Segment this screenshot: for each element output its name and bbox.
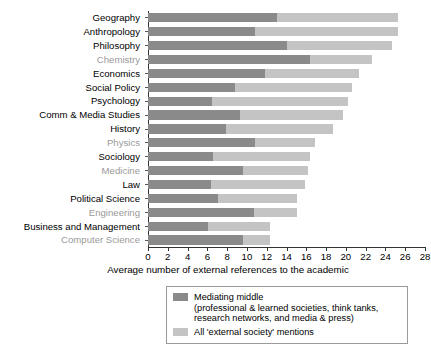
bar-container: [148, 205, 431, 219]
x-axis-tick-label: 2: [158, 252, 178, 262]
bar-container: [148, 94, 431, 108]
category-label: Anthropology: [0, 27, 145, 37]
category-label: Psychology: [0, 96, 145, 106]
bar-segment-external-society: [243, 166, 308, 175]
bar-segment-external-society: [235, 83, 352, 92]
stacked-bar: [148, 138, 315, 147]
bar-segment-external-society: [310, 55, 371, 64]
stacked-bar: [148, 208, 297, 217]
legend-label-sub2: research networks, and media & press): [194, 313, 378, 324]
stacked-bar: [148, 83, 352, 92]
bar-segment-external-society: [240, 110, 343, 119]
category-label: Business and Management: [0, 222, 145, 232]
bar-rows: GeographyAnthropologyPhilosophyChemistry…: [0, 11, 431, 247]
legend-swatch-icon-light: [173, 328, 188, 336]
stacked-bar: [148, 13, 398, 22]
bar-container: [148, 233, 431, 247]
bar-segment-external-society: [265, 69, 359, 78]
plot-area: GeographyAnthropologyPhilosophyChemistry…: [0, 0, 431, 250]
category-label: Geography: [0, 13, 145, 23]
bar-row: Physics: [0, 136, 431, 150]
legend-item-mediating-middle: Mediating middle (professional & learned…: [173, 292, 401, 324]
bar-row: Anthropology: [0, 25, 431, 39]
stacked-bar: [148, 41, 392, 50]
bar-segment-external-society: [212, 97, 348, 106]
bar-segment-mediating-middle: [148, 208, 254, 217]
category-label: Law: [0, 180, 145, 190]
bar-row: Social Policy: [0, 80, 431, 94]
bar-segment-mediating-middle: [148, 194, 218, 203]
bar-row: Comm & Media Studies: [0, 108, 431, 122]
x-axis-tick-label: 18: [316, 252, 336, 262]
stacked-bar: [148, 97, 348, 106]
category-label: Economics: [0, 69, 145, 79]
x-axis-tick-label: 6: [197, 252, 217, 262]
category-label: Medicine: [0, 166, 145, 176]
bar-row: Economics: [0, 67, 431, 81]
x-axis-tick-label: 8: [217, 252, 237, 262]
category-label: Physics: [0, 138, 145, 148]
bar-segment-mediating-middle: [148, 69, 265, 78]
bar-row: Computer Science: [0, 233, 431, 247]
bar-row: Geography: [0, 11, 431, 25]
stacked-bar: [148, 124, 333, 133]
stacked-bar: [148, 55, 372, 64]
bar-row: Business and Management: [0, 219, 431, 233]
x-axis-tick-label: 0: [138, 252, 158, 262]
bar-container: [148, 67, 431, 81]
bar-container: [148, 122, 431, 136]
x-axis-tick-label: 10: [237, 252, 257, 262]
bar-segment-external-society: [243, 235, 270, 244]
legend-label-sub1: (professional & learned societies, think…: [194, 303, 378, 314]
x-axis-tick-label: 20: [336, 252, 356, 262]
bar-segment-mediating-middle: [148, 97, 212, 106]
x-axis-tick-label: 28: [415, 252, 431, 262]
bar-container: [148, 164, 431, 178]
bar-row: Political Science: [0, 192, 431, 206]
bar-row: Sociology: [0, 150, 431, 164]
x-axis-tick-label: 16: [296, 252, 316, 262]
bar-segment-external-society: [287, 41, 392, 50]
x-axis-tick-label: 26: [395, 252, 415, 262]
bar-segment-mediating-middle: [148, 110, 240, 119]
bar-container: [148, 80, 431, 94]
category-label: History: [0, 124, 145, 134]
bar-container: [148, 178, 431, 192]
x-axis-tick-label: 24: [375, 252, 395, 262]
bar-row: Philosophy: [0, 39, 431, 53]
bar-container: [148, 150, 431, 164]
x-axis-tick-label: 12: [257, 252, 277, 262]
stacked-bar: [148, 194, 297, 203]
bar-row: Medicine: [0, 164, 431, 178]
bar-segment-mediating-middle: [148, 235, 243, 244]
bar-container: [148, 219, 431, 233]
bar-segment-external-society: [211, 180, 305, 189]
category-label: Philosophy: [0, 41, 145, 51]
bar-row: Psychology: [0, 94, 431, 108]
bar-segment-external-society: [226, 124, 333, 133]
bar-container: [148, 25, 431, 39]
chart-root: GeographyAnthropologyPhilosophyChemistry…: [0, 0, 431, 347]
stacked-bar: [148, 180, 305, 189]
bar-segment-mediating-middle: [148, 41, 287, 50]
bar-segment-mediating-middle: [148, 83, 235, 92]
bar-segment-mediating-middle: [148, 166, 243, 175]
legend-label-main: Mediating middle: [194, 292, 263, 302]
bar-segment-mediating-middle: [148, 152, 213, 161]
legend-item-external-society: All 'external society' mentions: [173, 327, 401, 338]
bar-container: [148, 11, 431, 25]
bar-segment-mediating-middle: [148, 222, 208, 231]
legend-label-external-society: All 'external society' mentions: [194, 327, 314, 338]
stacked-bar: [148, 222, 270, 231]
category-label: Comm & Media Studies: [0, 110, 145, 120]
stacked-bar: [148, 235, 270, 244]
legend-swatch-icon-dark: [173, 293, 188, 301]
bar-segment-mediating-middle: [148, 138, 255, 147]
bar-container: [148, 136, 431, 150]
bar-segment-mediating-middle: [148, 180, 211, 189]
x-axis-tick-label: 22: [356, 252, 376, 262]
bar-row: History: [0, 122, 431, 136]
bar-row: Engineering: [0, 205, 431, 219]
chart-legend: Mediating middle (professional & learned…: [166, 286, 408, 344]
bar-segment-mediating-middle: [148, 13, 277, 22]
